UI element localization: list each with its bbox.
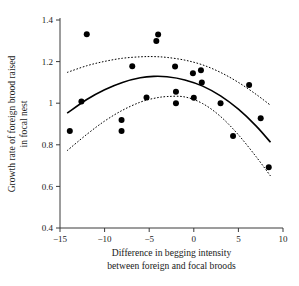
data-point [198,67,204,73]
figure-container: 0.40.60.811.21.4 −15−10−50510 Difference… [0,0,299,286]
x-tick-label: 5 [236,234,241,244]
x-tick-label: −10 [98,234,113,244]
lower-confidence-band [67,96,270,176]
y-tick-label: 1.4 [42,15,54,25]
data-point [155,32,161,38]
data-point [78,99,84,105]
axes: 0.40.60.811.21.4 −15−10−50510 [42,15,288,244]
data-point [230,133,236,139]
data-point [173,89,179,95]
y-tick-label: 0.6 [42,182,54,192]
x-tick-label: 10 [279,234,289,244]
y-axis-label-line1: Growth rate of foreign brood raised [6,55,17,192]
data-point [246,82,252,88]
upper-confidence-band [67,57,270,106]
y-tick-label: 0.4 [42,223,54,233]
data-point [191,95,197,101]
data-point [67,128,73,134]
scatter-plot-figure: 0.40.60.811.21.4 −15−10−50510 Difference… [0,0,299,286]
fitted-curves [67,57,270,176]
regression-fit-curve [67,76,270,142]
data-point [119,128,125,134]
y-axis-ticks: 0.40.60.811.21.4 [42,15,60,233]
data-point [218,100,224,106]
data-point [258,115,264,121]
y-axis-label-line2: in focal nest [18,100,29,147]
x-axis-label-line2: between foreign and focal broods [107,260,236,271]
data-point [144,94,150,100]
axis-labels: Difference in begging intensity between … [6,55,236,271]
y-tick-label: 1 [49,98,54,108]
data-point [153,38,159,44]
data-point [173,100,179,106]
data-point [84,31,90,37]
data-point [129,63,135,69]
data-point [119,117,125,123]
x-axis-ticks: −15−10−50510 [53,228,288,244]
y-tick-label: 1.2 [42,57,53,67]
x-tick-label: 0 [192,234,197,244]
x-axis-label-line1: Difference in begging intensity [112,247,232,258]
data-point [266,164,272,170]
y-tick-label: 0.8 [42,140,54,150]
data-point [199,79,205,85]
x-tick-label: −15 [53,234,68,244]
x-tick-label: −5 [144,234,154,244]
data-points [67,31,272,170]
data-point [172,64,178,70]
data-point [190,70,196,76]
